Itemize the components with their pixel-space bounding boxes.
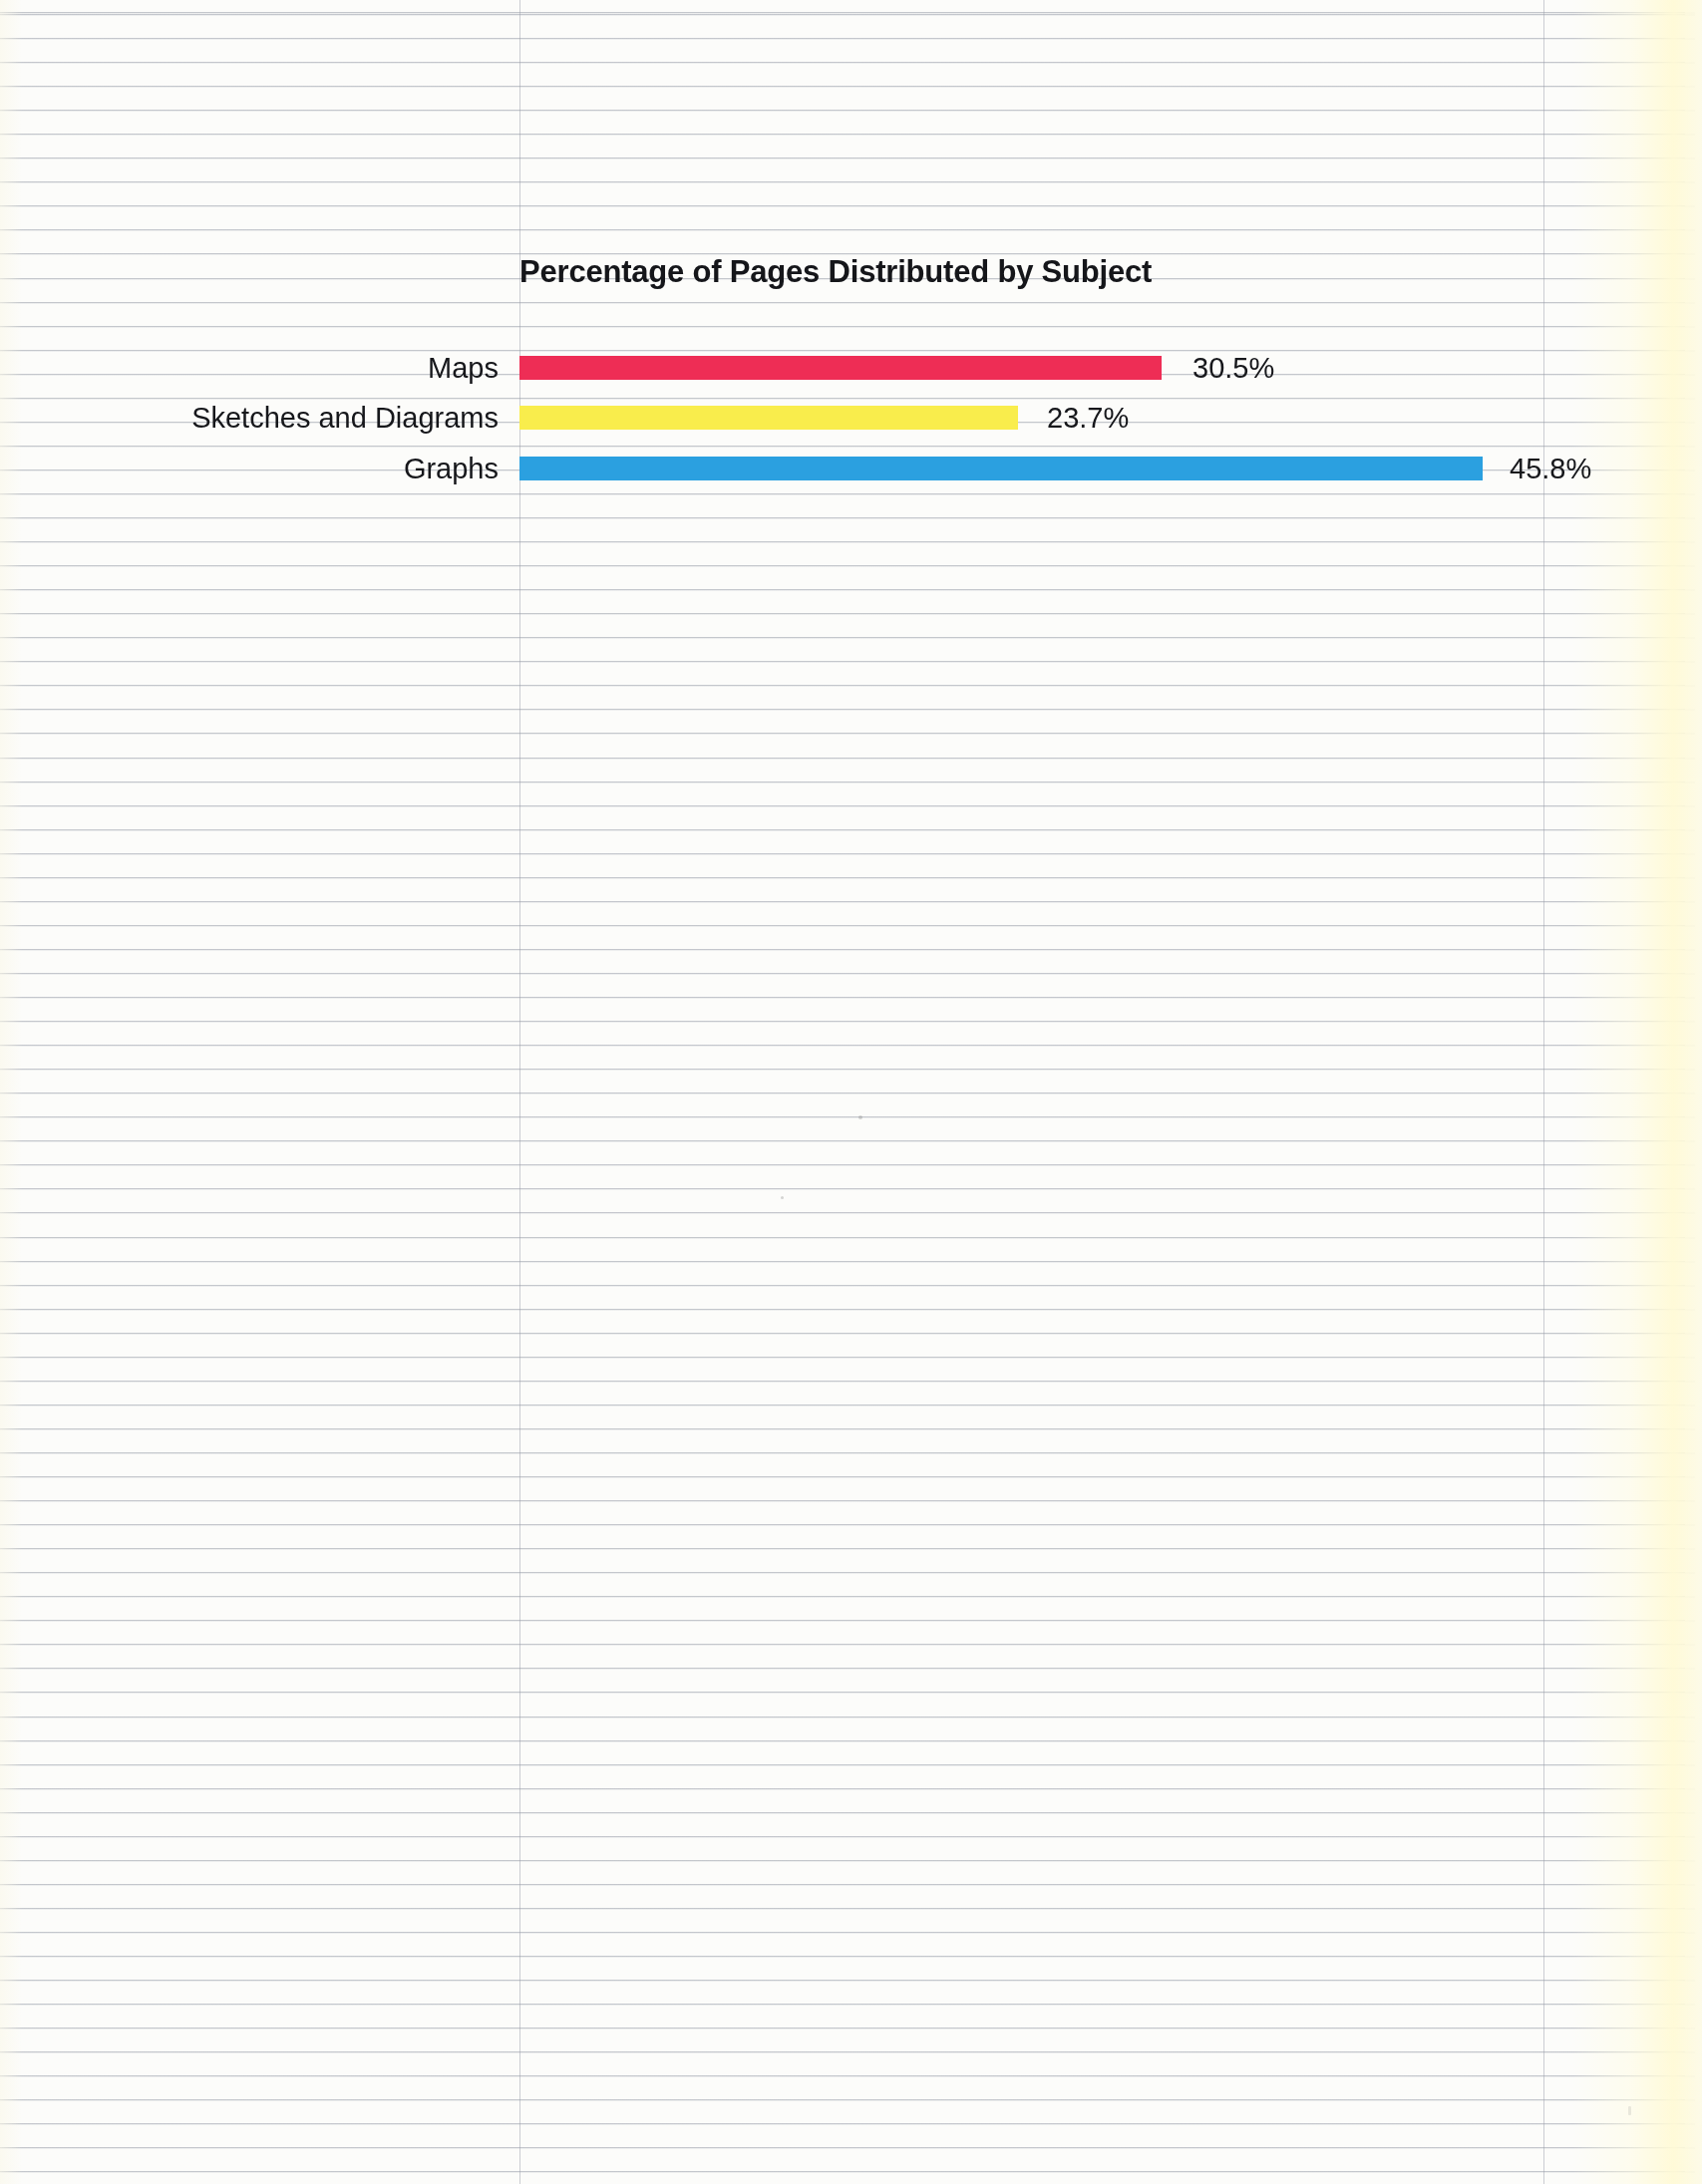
bar-row: Graphs 45.8% xyxy=(0,449,1702,488)
bar-track-maps xyxy=(519,356,1162,380)
bar-track-graphs xyxy=(519,457,1483,480)
notebook-page: Percentage of Pages Distributed by Subje… xyxy=(0,0,1702,2184)
bar-category-label-sketches-and-diagrams: Sketches and Diagrams xyxy=(191,398,499,438)
bar-value-label-sketches-and-diagrams: 23.7% xyxy=(1047,398,1129,438)
bar-maps[interactable] xyxy=(519,356,1162,380)
bar-track-sketches-and-diagrams xyxy=(519,406,1018,430)
bar-value-label-graphs: 45.8% xyxy=(1510,449,1591,488)
bar-graphs[interactable] xyxy=(519,457,1483,480)
bar-category-label-graphs: Graphs xyxy=(404,449,499,488)
bar-sketches-and-diagrams[interactable] xyxy=(519,406,1018,430)
bar-value-label-maps: 30.5% xyxy=(1192,348,1274,388)
chart-title: Percentage of Pages Distributed by Subje… xyxy=(519,254,1152,290)
bar-row: Sketches and Diagrams 23.7% xyxy=(0,398,1702,438)
bar-row: Maps 30.5% xyxy=(0,348,1702,388)
bar-category-label-maps: Maps xyxy=(428,348,499,388)
bar-chart: Percentage of Pages Distributed by Subje… xyxy=(0,0,1702,518)
